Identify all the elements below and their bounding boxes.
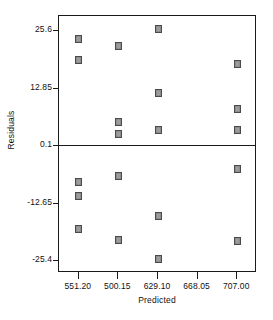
x-axis-tick	[236, 272, 237, 279]
y-axis-tick-label: -25.4	[32, 254, 52, 264]
data-point-marker	[234, 105, 241, 113]
y-axis-tick-label: 0.1	[40, 139, 52, 149]
data-point-marker	[155, 25, 162, 33]
data-point-marker	[75, 192, 82, 200]
x-axis-tick-label: 500.15	[104, 281, 131, 291]
data-point-marker	[234, 237, 241, 245]
data-point-marker	[155, 212, 162, 220]
plot-frame	[58, 15, 256, 272]
y-axis-tick-label: -12.65	[27, 197, 52, 207]
data-point-marker	[115, 42, 122, 50]
x-axis-tick	[157, 272, 158, 279]
y-axis-tick	[53, 203, 59, 204]
data-point-marker	[115, 130, 122, 138]
y-axis-tick-label: 25.6	[35, 24, 52, 34]
data-point-marker	[234, 60, 241, 68]
x-axis-tick-label: 668.05	[183, 281, 210, 291]
y-axis-tick	[53, 260, 59, 261]
x-axis-tick	[78, 272, 79, 279]
data-point-marker	[155, 255, 162, 263]
x-axis-tick-label: 551.20	[64, 281, 91, 291]
data-point-marker	[234, 165, 241, 173]
x-axis-tick	[117, 272, 118, 279]
data-point-marker	[75, 225, 82, 233]
y-axis-tick	[53, 145, 59, 146]
plot-area	[59, 16, 255, 271]
y-axis-title: Residuals	[6, 95, 16, 165]
data-point-marker	[234, 126, 241, 134]
data-point-marker	[155, 126, 162, 134]
y-axis-tick	[53, 88, 59, 89]
x-axis-tick-label: 629.10	[144, 281, 171, 291]
x-axis-labels: 551.20500.15629.10668.05707.00	[58, 272, 256, 312]
y-axis-tick	[53, 30, 59, 31]
y-axis-tick-label: 12.85	[30, 82, 52, 92]
zero-reference-line	[59, 145, 255, 146]
data-point-marker	[75, 56, 82, 64]
data-point-marker	[115, 236, 122, 244]
data-point-marker	[75, 178, 82, 186]
data-point-marker	[115, 118, 122, 126]
x-axis-tick-label: 707.00	[223, 281, 250, 291]
data-point-marker	[155, 89, 162, 97]
x-axis-tick	[197, 272, 198, 279]
data-point-marker	[115, 172, 122, 180]
residual-scatter-chart: 25.612.850.1-12.65-25.4 Residuals 551.20…	[0, 0, 273, 320]
data-point-marker	[75, 35, 82, 43]
x-axis-title: Predicted	[58, 295, 256, 305]
